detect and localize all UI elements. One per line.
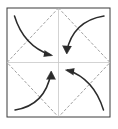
origami-fold-diagram <box>0 0 118 129</box>
diagram-canvas <box>0 0 118 129</box>
